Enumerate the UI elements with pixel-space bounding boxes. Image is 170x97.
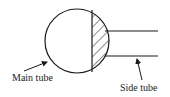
side-tube-label: Side tube [120, 82, 158, 93]
main-tube-label: Main tube [12, 72, 53, 83]
main-tube-arrow-icon [24, 62, 47, 71]
side-tube-arrow-icon [137, 59, 142, 80]
tube-junction-diagram: Main tube Side tube [0, 0, 170, 97]
